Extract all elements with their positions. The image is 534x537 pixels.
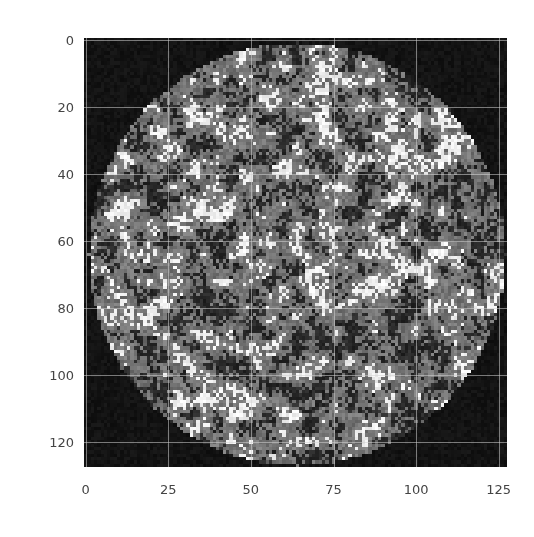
gridline-vertical: [168, 38, 169, 467]
x-tick-label: 75: [325, 482, 342, 497]
x-tick-label: 100: [404, 482, 429, 497]
y-tick-label: 80: [0, 300, 74, 315]
gridline-horizontal: [84, 174, 507, 175]
y-tick-label: 40: [0, 166, 74, 181]
x-tick-label: 0: [82, 482, 90, 497]
gridline-horizontal: [84, 375, 507, 376]
x-tick-label: 25: [160, 482, 177, 497]
gridline-vertical: [86, 38, 87, 467]
gridline-vertical: [416, 38, 417, 467]
gridline-horizontal: [84, 442, 507, 443]
image-plot: [84, 38, 507, 467]
grayscale-disk-image: [84, 38, 507, 467]
gridline-horizontal: [84, 241, 507, 242]
y-tick-label: 120: [0, 434, 74, 449]
gridline-horizontal: [84, 308, 507, 309]
y-tick-label: 0: [0, 32, 74, 47]
y-tick-label: 20: [0, 99, 74, 114]
gridline-vertical: [499, 38, 500, 467]
x-tick-label: 50: [243, 482, 260, 497]
y-tick-label: 100: [0, 367, 74, 382]
x-tick-label: 125: [486, 482, 511, 497]
gridline-horizontal: [84, 40, 507, 41]
gridline-vertical: [251, 38, 252, 467]
gridline-horizontal: [84, 107, 507, 108]
y-tick-label: 60: [0, 233, 74, 248]
gridline-vertical: [334, 38, 335, 467]
